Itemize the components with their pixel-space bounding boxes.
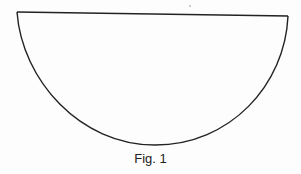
diameter-line xyxy=(17,12,288,16)
figure-caption: Fig. 1 xyxy=(0,151,301,166)
figure-canvas: Fig. 1 xyxy=(0,0,301,174)
scan-speck xyxy=(189,5,191,7)
semicircle-diagram xyxy=(0,0,301,174)
semicircle-arc xyxy=(17,12,288,145)
